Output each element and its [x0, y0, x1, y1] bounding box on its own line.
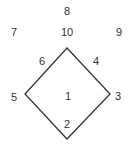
label-2: 2: [64, 118, 70, 130]
label-10: 10: [61, 26, 73, 38]
label-6: 6: [39, 55, 45, 67]
label-9: 9: [116, 26, 122, 38]
label-4: 4: [93, 55, 99, 67]
label-5: 5: [11, 91, 17, 103]
label-7: 7: [11, 26, 17, 38]
label-8: 8: [64, 5, 70, 17]
label-3: 3: [115, 90, 121, 102]
label-1: 1: [65, 90, 71, 102]
